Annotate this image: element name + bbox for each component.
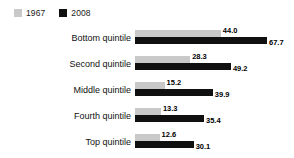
- category-label: Bottom quintile: [0, 34, 135, 43]
- bar-group-bars: 44.067.7: [135, 27, 294, 53]
- bar-value-label: 13.3: [163, 105, 178, 113]
- bar-group-bars: 13.335.4: [135, 105, 294, 131]
- bar-1967: [135, 30, 221, 37]
- bar-value-label: 67.7: [269, 39, 284, 47]
- bar-group: Second quintile28.349.2: [0, 53, 294, 79]
- bar-row: 15.2: [135, 82, 181, 89]
- bar-value-label: 35.4: [206, 117, 221, 125]
- legend-label: 1967: [26, 9, 45, 18]
- bar-group-bars: 28.349.2: [135, 53, 294, 79]
- bar-value-label: 49.2: [233, 65, 248, 73]
- category-label: Middle quintile: [0, 86, 135, 95]
- chart-legend: 1967 2008: [14, 9, 91, 18]
- bar-1967: [135, 108, 161, 115]
- bar-2008: [135, 89, 213, 96]
- plot-area: Bottom quintile44.067.7Second quintile28…: [0, 27, 294, 158]
- bar-2008: [135, 63, 231, 70]
- bar-group-bars: 15.239.9: [135, 79, 294, 105]
- bar-1967: [135, 82, 165, 89]
- bar-row: 13.3: [135, 108, 178, 115]
- category-label: Second quintile: [0, 60, 135, 69]
- bar-row: 28.3: [135, 56, 207, 63]
- legend-entry-1967: 1967: [14, 9, 45, 18]
- bar-group: Top quintile12.630.1: [0, 131, 294, 157]
- bar-value-label: 39.9: [215, 91, 230, 99]
- bar-row: 39.9: [135, 89, 229, 96]
- bar-2008: [135, 115, 204, 122]
- bar-row: 49.2: [135, 63, 248, 70]
- bar-chart: 1967 2008 Bottom quintile44.067.7Second …: [0, 0, 294, 158]
- category-label: Fourth quintile: [0, 112, 135, 121]
- square-swatch-icon: [14, 9, 22, 17]
- bar-group-bars: 12.630.1: [135, 131, 294, 157]
- bar-row: 12.6: [135, 134, 176, 141]
- legend-entry-2008: 2008: [59, 9, 90, 18]
- bar-value-label: 12.6: [162, 131, 177, 139]
- bar-2008: [135, 141, 194, 148]
- bar-group: Middle quintile15.239.9: [0, 79, 294, 105]
- bar-group: Fourth quintile13.335.4: [0, 105, 294, 131]
- bar-row: 35.4: [135, 115, 221, 122]
- bar-row: 30.1: [135, 141, 210, 148]
- bar-value-label: 44.0: [223, 27, 238, 35]
- bar-row: 44.0: [135, 30, 237, 37]
- bar-value-label: 30.1: [196, 143, 211, 151]
- category-label: Top quintile: [0, 138, 135, 147]
- bar-value-label: 15.2: [167, 79, 182, 87]
- bar-group: Bottom quintile44.067.7: [0, 27, 294, 53]
- bar-1967: [135, 56, 190, 63]
- bar-2008: [135, 37, 267, 44]
- square-swatch-icon: [59, 9, 67, 17]
- bar-row: 67.7: [135, 37, 284, 44]
- bar-value-label: 28.3: [192, 53, 207, 61]
- bar-1967: [135, 134, 160, 141]
- legend-label: 2008: [71, 9, 90, 18]
